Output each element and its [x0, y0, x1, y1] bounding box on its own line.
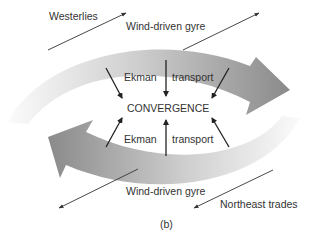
- panel-label: (b): [160, 218, 173, 230]
- northeast-trades-label: Northeast trades: [220, 198, 298, 210]
- gyre-label-top: Wind-driven gyre: [126, 20, 205, 32]
- ekman-convergence-diagram: Westerlies Wind-driven gyre Ekman transp…: [0, 0, 323, 242]
- convergence-label: CONVERGENCE: [127, 102, 209, 114]
- ekman-label-bottom: Ekman: [124, 133, 157, 145]
- ekman-arrow-bottom-right: [212, 118, 229, 147]
- gyre-arc-bottom: [48, 116, 300, 184]
- transport-label-bottom: transport: [172, 133, 213, 145]
- gyre-label-bottom: Wind-driven gyre: [126, 185, 205, 197]
- westerlies-label: Westerlies: [49, 10, 98, 22]
- ekman-label-top: Ekman: [124, 71, 157, 83]
- transport-label-top: transport: [172, 71, 213, 83]
- ekman-arrow-bottom-left: [106, 118, 122, 147]
